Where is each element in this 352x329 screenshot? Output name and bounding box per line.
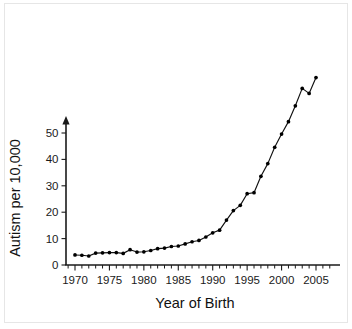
x-tick-label: 1970 (62, 274, 88, 286)
data-series-autism-rate (73, 76, 318, 258)
data-point-marker (259, 174, 263, 178)
y-tick-label: 10 (46, 233, 59, 245)
data-point-marker (149, 249, 153, 253)
data-point-marker (300, 87, 304, 91)
data-point-marker (128, 248, 132, 252)
data-point-marker (238, 203, 242, 207)
data-point-marker (314, 76, 318, 80)
data-point-marker (163, 246, 167, 250)
chart-figure: 0102030405019701975198019851990199520002… (0, 0, 352, 329)
data-point-marker (287, 120, 291, 124)
data-point-marker (176, 244, 180, 248)
data-point-marker (114, 251, 118, 255)
data-point-marker (225, 218, 229, 222)
axes-group (62, 116, 340, 265)
data-point-marker (204, 235, 208, 239)
x-axis-title: Year of Birth (155, 295, 234, 311)
data-point-marker (232, 209, 236, 213)
y-tick-label: 40 (46, 153, 59, 165)
data-point-marker (293, 104, 297, 108)
x-tick-label: 1975 (97, 274, 123, 286)
x-tick-label: 1985 (165, 274, 191, 286)
data-point-marker (80, 253, 84, 257)
data-point-marker (307, 92, 311, 96)
data-point-marker (266, 162, 270, 166)
data-point-marker (101, 251, 105, 255)
data-point-marker (273, 145, 277, 149)
y-tick-label: 50 (46, 127, 59, 139)
data-point-marker (121, 252, 125, 256)
x-axis-ticks: 19701975198019851990199520002005 (62, 265, 330, 286)
y-tick-label: 0 (52, 259, 58, 271)
data-point-marker (135, 250, 139, 254)
y-axis-ticks: 01020304050 (46, 127, 66, 271)
series-line (75, 78, 316, 256)
data-point-marker (211, 231, 215, 235)
data-point-marker (197, 239, 201, 243)
data-point-marker (170, 245, 174, 249)
x-tick-label: 1980 (131, 274, 157, 286)
chart-plot-area: 0102030405019701975198019851990199520002… (0, 0, 352, 329)
x-tick-label: 1995 (234, 274, 260, 286)
data-point-marker (183, 242, 187, 246)
data-point-marker (94, 251, 98, 255)
x-tick-label: 2005 (303, 274, 329, 286)
x-tick-label: 2000 (269, 274, 295, 286)
data-point-marker (280, 132, 284, 136)
data-point-marker (218, 228, 222, 232)
data-point-marker (108, 251, 112, 255)
data-point-marker (252, 191, 256, 195)
data-point-marker (190, 240, 194, 244)
data-point-marker (156, 247, 160, 251)
y-tick-label: 20 (46, 206, 59, 218)
data-point-marker (73, 253, 77, 257)
data-point-marker (87, 254, 91, 258)
x-tick-label: 1990 (200, 274, 226, 286)
data-point-marker (245, 192, 249, 196)
y-axis-arrow-icon (62, 116, 69, 125)
y-tick-label: 30 (46, 180, 59, 192)
data-point-marker (142, 250, 146, 254)
y-axis-title: Autism per 10,000 (7, 139, 23, 257)
